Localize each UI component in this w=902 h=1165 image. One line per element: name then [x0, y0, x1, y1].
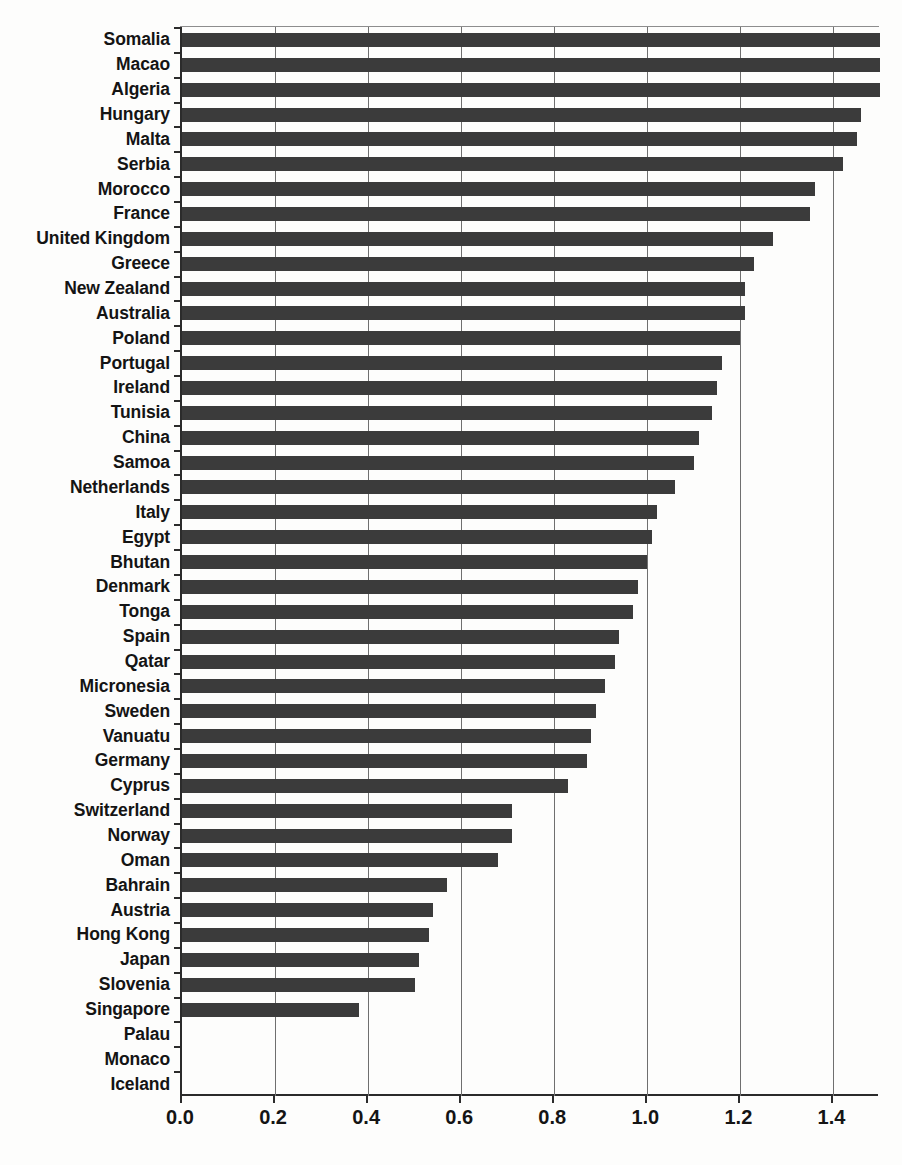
bar-row[interactable] [182, 325, 880, 350]
bar[interactable] [182, 431, 699, 445]
bar-row[interactable] [182, 872, 880, 897]
bar[interactable] [182, 356, 722, 370]
y-axis-label: Japan [120, 949, 170, 969]
bar-row[interactable] [182, 425, 880, 450]
x-axis-label: 0.8 [517, 1106, 587, 1129]
bar[interactable] [182, 928, 429, 942]
bar-row[interactable] [182, 251, 880, 276]
bar-row[interactable] [182, 350, 880, 375]
bar-row[interactable] [182, 1046, 880, 1071]
bar-row[interactable] [182, 847, 880, 872]
bar[interactable] [182, 306, 745, 320]
y-axis-tick [174, 1046, 180, 1048]
bar-row[interactable] [182, 574, 880, 599]
y-axis-tick [174, 474, 180, 476]
bar[interactable] [182, 207, 810, 221]
bar-row[interactable] [182, 300, 880, 325]
bar-row[interactable] [182, 400, 880, 425]
bar-row[interactable] [182, 226, 880, 251]
bar-row[interactable] [182, 102, 880, 127]
bar-row[interactable] [182, 176, 880, 201]
bar-row[interactable] [182, 201, 880, 226]
bar[interactable] [182, 257, 754, 271]
bar-row[interactable] [182, 624, 880, 649]
bar-row[interactable] [182, 649, 880, 674]
bar[interactable] [182, 406, 712, 420]
bar-row[interactable] [182, 723, 880, 748]
y-axis-label: Bahrain [106, 875, 170, 895]
bar[interactable] [182, 605, 633, 619]
bar[interactable] [182, 1003, 359, 1017]
y-axis-label: Tonga [119, 601, 170, 621]
bar-row[interactable] [182, 450, 880, 475]
bar-row[interactable] [182, 698, 880, 723]
bar-row[interactable] [182, 823, 880, 848]
y-axis-tick [174, 823, 180, 825]
bar[interactable] [182, 829, 512, 843]
bar-row[interactable] [182, 549, 880, 574]
bar[interactable] [182, 58, 880, 72]
bar[interactable] [182, 903, 433, 917]
bar[interactable] [182, 182, 815, 196]
bar[interactable] [182, 331, 740, 345]
bar[interactable] [182, 878, 447, 892]
bar-row[interactable] [182, 798, 880, 823]
bar-row[interactable] [182, 673, 880, 698]
bar-row[interactable] [182, 499, 880, 524]
bar[interactable] [182, 804, 512, 818]
bar-row[interactable] [182, 524, 880, 549]
bar[interactable] [182, 108, 861, 122]
bar[interactable] [182, 853, 498, 867]
bar[interactable] [182, 480, 675, 494]
bar[interactable] [182, 630, 619, 644]
bar[interactable] [182, 555, 647, 569]
bar-row[interactable] [182, 77, 880, 102]
bar-row[interactable] [182, 52, 880, 77]
bar-row[interactable] [182, 474, 880, 499]
bar-row[interactable] [182, 922, 880, 947]
bar[interactable] [182, 754, 587, 768]
bar-row[interactable] [182, 947, 880, 972]
y-axis-tick [174, 1021, 180, 1023]
bar[interactable] [182, 232, 773, 246]
bar-row[interactable] [182, 126, 880, 151]
bar-row[interactable] [182, 599, 880, 624]
bar[interactable] [182, 83, 880, 97]
bar-row[interactable] [182, 276, 880, 301]
bar[interactable] [182, 655, 615, 669]
bar-row[interactable] [182, 748, 880, 773]
bar[interactable] [182, 505, 657, 519]
bar-row[interactable] [182, 1071, 880, 1096]
y-axis-tick [174, 673, 180, 675]
bar[interactable] [182, 729, 591, 743]
bar[interactable] [182, 33, 880, 47]
bar[interactable] [182, 978, 415, 992]
bar-row[interactable] [182, 151, 880, 176]
y-axis-label: Samoa [113, 452, 170, 472]
bar[interactable] [182, 282, 745, 296]
bar-row[interactable] [182, 897, 880, 922]
bar[interactable] [182, 132, 857, 146]
x-axis-tick [366, 1096, 368, 1103]
bar-row[interactable] [182, 773, 880, 798]
bar-row[interactable] [182, 1021, 880, 1046]
y-axis-tick [174, 723, 180, 725]
bar-row[interactable] [182, 27, 880, 52]
y-axis-label: Bhutan [110, 552, 170, 572]
x-axis-label: 1.2 [703, 1106, 773, 1129]
y-axis-label: Poland [112, 328, 170, 348]
bar[interactable] [182, 456, 694, 470]
bar[interactable] [182, 157, 843, 171]
bar[interactable] [182, 580, 638, 594]
bar-row[interactable] [182, 972, 880, 997]
y-axis-tick [174, 400, 180, 402]
x-axis-label: 0.0 [145, 1106, 215, 1129]
bar[interactable] [182, 953, 419, 967]
bar[interactable] [182, 381, 717, 395]
bar[interactable] [182, 779, 568, 793]
bar[interactable] [182, 679, 605, 693]
bar-row[interactable] [182, 375, 880, 400]
bar-row[interactable] [182, 997, 880, 1022]
bar[interactable] [182, 530, 652, 544]
bar[interactable] [182, 704, 596, 718]
